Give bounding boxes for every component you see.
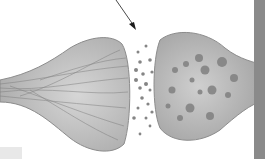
- bottom-left-patch: [0, 147, 22, 159]
- synapse-illustration: [0, 0, 265, 159]
- neurotransmitter-vesicles: [132, 45, 153, 136]
- pointer-arrow: [116, 0, 136, 30]
- postsynaptic-terminal: [154, 32, 265, 140]
- synapse-drawing: [0, 0, 265, 159]
- right-edge-bar: [254, 0, 265, 159]
- presynaptic-terminal: [0, 38, 130, 152]
